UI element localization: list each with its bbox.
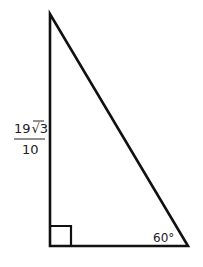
side-denominator: 10 (22, 142, 39, 157)
side-length-label: 19√3 10 (14, 121, 48, 157)
triangle-diagram: 19√3 10 60° (0, 0, 203, 267)
angle-label: 60° (153, 231, 174, 245)
right-triangle (50, 14, 188, 246)
right-angle-marker (50, 226, 71, 246)
side-numerator: 19√3 (14, 121, 48, 136)
